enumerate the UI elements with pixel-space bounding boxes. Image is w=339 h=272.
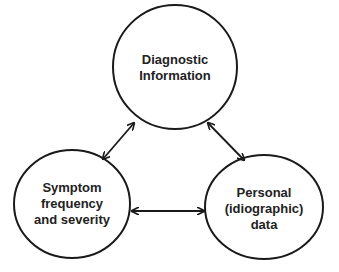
label-line: Symptom xyxy=(14,180,130,196)
personal-node-label: Personal (idiographic) data xyxy=(205,185,323,233)
edge-diagnostic-symptom xyxy=(103,123,134,159)
edge-diagnostic-personal xyxy=(208,123,244,160)
label-line: and severity xyxy=(14,212,130,228)
label-line: Information xyxy=(113,68,237,84)
label-line: data xyxy=(205,217,323,233)
label-line: (idiographic) xyxy=(205,201,323,217)
diagnostic-node-label: Diagnostic Information xyxy=(113,52,237,84)
symptom-node-label: Symptom frequency and severity xyxy=(14,180,130,228)
label-line: Personal xyxy=(205,185,323,201)
label-line: Diagnostic xyxy=(113,52,237,68)
label-line: frequency xyxy=(14,196,130,212)
